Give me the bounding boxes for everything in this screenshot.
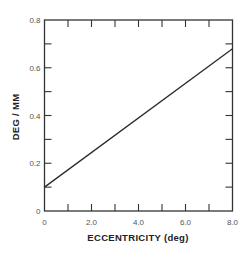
- series: [45, 49, 233, 187]
- plot-frame: [45, 20, 233, 211]
- y-axis-title: DEG / MM: [10, 94, 21, 141]
- ticks: [45, 20, 233, 211]
- y-tick-label: 0.6: [29, 64, 41, 73]
- x-tick-label: 6.0: [180, 218, 192, 227]
- y-tick-label: 0.4: [29, 112, 41, 121]
- y-tick-label: 0.8: [29, 16, 41, 25]
- axes: [45, 20, 233, 211]
- y-tick-label: 0.2: [29, 159, 41, 168]
- x-tick-label: 4.0: [133, 218, 145, 227]
- series-line: [45, 49, 233, 187]
- y-tick-label: 0: [36, 207, 41, 216]
- x-tick-label: 8.0: [227, 218, 239, 227]
- x-tick-label: 2.0: [86, 218, 98, 227]
- x-tick-label: 0: [42, 218, 47, 227]
- chart: 02.04.06.08.000.20.40.60.8 ECCENTRICITY …: [0, 0, 250, 256]
- x-axis-title: ECCENTRICITY (deg): [87, 232, 188, 243]
